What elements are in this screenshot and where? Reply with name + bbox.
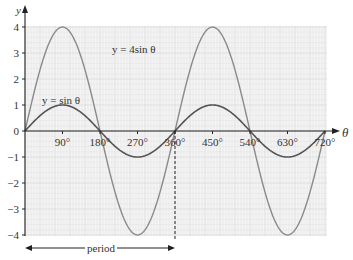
svg-text:270°: 270° [127, 136, 148, 148]
svg-text:1: 1 [14, 99, 20, 111]
sine-graph: 43210−1−2−3−490°180°270°360°450°540°630°… [0, 0, 353, 260]
y-axis-arrow-icon [22, 5, 28, 13]
arrow-right-icon [168, 245, 175, 251]
svg-text:3: 3 [14, 47, 20, 59]
arrow-left-icon [25, 245, 32, 251]
svg-text:360°: 360° [165, 136, 186, 148]
svg-text:−1: −1 [7, 151, 19, 163]
x-axis-arrow-icon [332, 128, 340, 134]
curve-label-sin: y = sin θ [42, 94, 80, 106]
period-arrow: period [25, 242, 175, 254]
svg-text:540°: 540° [240, 136, 261, 148]
curve-label-4sin: y = 4sin θ [112, 43, 156, 55]
period-label: period [87, 242, 116, 254]
svg-text:90°: 90° [55, 136, 70, 148]
svg-text:−4: −4 [7, 229, 19, 241]
x-axis-label: θ [342, 125, 349, 140]
svg-text:630°: 630° [277, 136, 298, 148]
svg-text:−3: −3 [7, 203, 19, 215]
svg-text:2: 2 [14, 73, 20, 85]
y-axis-label: y [15, 4, 21, 16]
svg-text:450°: 450° [202, 136, 223, 148]
svg-text:0: 0 [14, 125, 20, 137]
svg-text:4: 4 [14, 21, 20, 33]
svg-text:−2: −2 [7, 177, 19, 189]
svg-text:180°: 180° [90, 136, 111, 148]
svg-text:720°: 720° [315, 136, 336, 148]
